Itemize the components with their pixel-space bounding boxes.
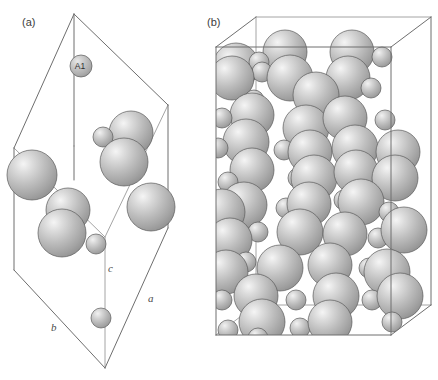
atom-sphere (308, 300, 352, 344)
crystal-structure-figure: (a) (0, 0, 438, 380)
atom-sphere (212, 108, 232, 128)
atom-sphere (212, 290, 232, 310)
atom-sphere (38, 209, 86, 257)
panel-a: (a) (7, 14, 175, 368)
axis-label-c: c (108, 262, 113, 274)
atom-sphere (86, 234, 106, 254)
atom-label-a1: A1 (75, 61, 86, 71)
atom-sphere (208, 138, 228, 158)
panel-a-atoms (7, 55, 175, 328)
panel-b: (b) (199, 16, 431, 348)
panel-b-label: (b) (207, 16, 220, 28)
atom-sphere (381, 207, 427, 253)
atom-sphere (127, 183, 175, 231)
panel-a-label: (a) (22, 16, 35, 28)
atom-sphere (218, 320, 238, 340)
atom-sphere (375, 110, 395, 130)
atom-sphere (91, 308, 111, 328)
atom-sphere (248, 328, 268, 348)
panel-b-atoms (199, 30, 427, 348)
atom-sphere (372, 47, 392, 67)
atom-sphere (239, 299, 285, 345)
atom-sphere (100, 138, 148, 186)
atom-sphere (286, 290, 306, 310)
figure-svg: (a) (0, 0, 438, 380)
atom-sphere (7, 150, 57, 200)
axis-label-b: b (51, 321, 57, 333)
atom-sphere (361, 78, 381, 98)
atom-sphere (377, 273, 423, 319)
axis-label-a: a (148, 292, 154, 304)
